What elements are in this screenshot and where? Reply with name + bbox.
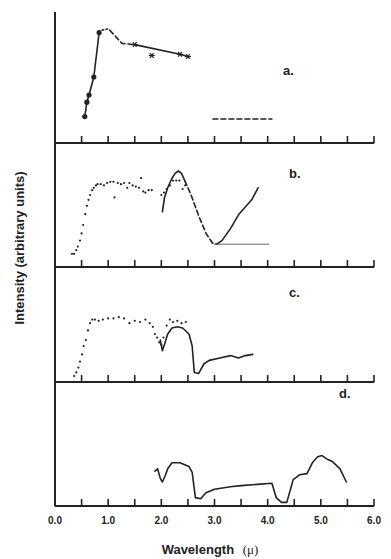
data-point bbox=[172, 321, 174, 323]
data-point bbox=[79, 361, 81, 363]
data-point bbox=[84, 100, 89, 105]
data-point bbox=[128, 322, 130, 324]
data-point bbox=[106, 182, 108, 184]
data-point bbox=[89, 194, 91, 196]
data-point bbox=[100, 183, 102, 185]
star-marker bbox=[177, 52, 183, 57]
x-tick-labels: 0.01.02.03.04.05.06.0 bbox=[48, 515, 381, 526]
data-point bbox=[118, 316, 120, 318]
data-point bbox=[126, 187, 128, 189]
data-point bbox=[112, 317, 114, 319]
data-series bbox=[71, 29, 346, 502]
data-point bbox=[109, 181, 111, 183]
data-point bbox=[77, 367, 79, 369]
panel-labels: a.b.c.d. bbox=[283, 63, 351, 401]
data-point bbox=[82, 114, 87, 119]
star-marker bbox=[185, 54, 191, 59]
data-point bbox=[154, 333, 156, 335]
data-point bbox=[75, 371, 77, 373]
data-point bbox=[160, 194, 162, 196]
data-point bbox=[166, 325, 168, 327]
data-point bbox=[175, 180, 177, 182]
data-point bbox=[91, 189, 93, 191]
panel-label: c. bbox=[289, 285, 300, 300]
data-point bbox=[123, 317, 125, 319]
data-point bbox=[139, 321, 141, 323]
series-line bbox=[155, 456, 346, 503]
x-axis-unit: (μ) bbox=[243, 542, 259, 557]
x-tick-label: 2.0 bbox=[154, 515, 168, 526]
panel-label: b. bbox=[289, 166, 301, 181]
data-point bbox=[120, 183, 122, 185]
data-point bbox=[172, 180, 174, 182]
y-axis-title: Intensity (arbitrary units) bbox=[12, 171, 27, 324]
x-tick-label: 3.0 bbox=[208, 515, 222, 526]
data-point bbox=[185, 321, 187, 323]
x-axis-label: Wavelength bbox=[162, 542, 235, 557]
data-point bbox=[176, 320, 178, 322]
x-axis-title: Wavelength (μ) bbox=[162, 542, 259, 557]
data-point bbox=[71, 253, 73, 255]
data-point bbox=[87, 199, 89, 201]
data-point bbox=[128, 182, 130, 184]
data-point bbox=[85, 339, 87, 341]
data-point bbox=[156, 337, 158, 339]
data-point bbox=[123, 182, 125, 184]
data-point bbox=[93, 187, 95, 189]
data-point bbox=[182, 188, 184, 190]
data-point bbox=[86, 205, 88, 207]
star-marker bbox=[132, 42, 138, 47]
panel-label: a. bbox=[283, 63, 294, 78]
data-point bbox=[91, 319, 93, 321]
series-line bbox=[185, 181, 217, 245]
panel-label: d. bbox=[339, 386, 351, 401]
data-point bbox=[178, 180, 180, 182]
x-tick-label: 1.0 bbox=[101, 515, 115, 526]
data-point bbox=[144, 192, 146, 194]
data-point bbox=[75, 249, 77, 251]
data-point bbox=[86, 92, 91, 97]
data-point bbox=[169, 319, 171, 321]
data-point bbox=[82, 224, 84, 226]
data-point bbox=[132, 184, 134, 186]
data-point bbox=[87, 329, 89, 331]
data-point bbox=[84, 213, 86, 215]
data-point bbox=[83, 345, 85, 347]
data-point bbox=[147, 189, 149, 191]
data-point bbox=[162, 337, 164, 339]
data-point bbox=[117, 182, 119, 184]
series-line bbox=[162, 171, 184, 212]
data-point bbox=[144, 319, 146, 321]
data-point bbox=[138, 187, 140, 189]
data-point bbox=[134, 320, 136, 322]
data-point bbox=[73, 253, 75, 255]
data-point bbox=[80, 232, 82, 234]
data-point bbox=[97, 320, 99, 322]
series-line bbox=[217, 188, 258, 244]
data-point bbox=[135, 186, 137, 188]
data-point bbox=[79, 240, 81, 242]
data-point bbox=[89, 322, 91, 324]
data-point bbox=[94, 319, 96, 321]
data-point bbox=[140, 177, 142, 179]
data-point bbox=[112, 181, 114, 183]
data-point bbox=[103, 184, 105, 186]
x-tick-label: 4.0 bbox=[261, 515, 275, 526]
data-point bbox=[107, 317, 109, 319]
series-line bbox=[160, 327, 253, 374]
data-point bbox=[73, 375, 75, 377]
star-marker bbox=[149, 53, 155, 58]
data-point bbox=[113, 196, 115, 198]
data-point bbox=[91, 74, 96, 79]
data-point bbox=[81, 353, 83, 355]
axes bbox=[55, 12, 374, 506]
data-point bbox=[180, 322, 182, 324]
data-point bbox=[142, 190, 144, 192]
data-point bbox=[151, 189, 153, 191]
data-point bbox=[102, 319, 104, 321]
spectra-chart: a.b.c.d. 0.01.02.03.04.05.06.0 Wavelengt… bbox=[0, 0, 391, 559]
data-point bbox=[163, 192, 165, 194]
x-tick-label: 6.0 bbox=[367, 515, 381, 526]
series-line bbox=[110, 30, 135, 44]
x-tick-label: 5.0 bbox=[314, 515, 328, 526]
